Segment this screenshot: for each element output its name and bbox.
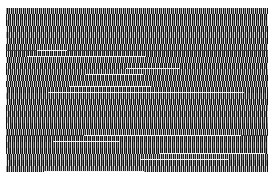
white-streak [44, 171, 144, 172]
noisy-text-block [6, 8, 268, 172]
